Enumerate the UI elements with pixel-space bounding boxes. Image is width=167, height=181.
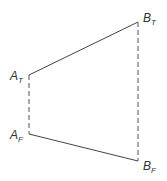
label-b-top: BT <box>143 11 157 27</box>
label-b-front: BF <box>143 159 157 175</box>
label-a-top: AT <box>9 69 24 85</box>
edge-front-view <box>29 134 138 161</box>
label-a-front: AF <box>9 128 24 144</box>
edge-top-view <box>29 22 138 75</box>
projection-diagram: AT AF BT BF <box>0 0 167 181</box>
